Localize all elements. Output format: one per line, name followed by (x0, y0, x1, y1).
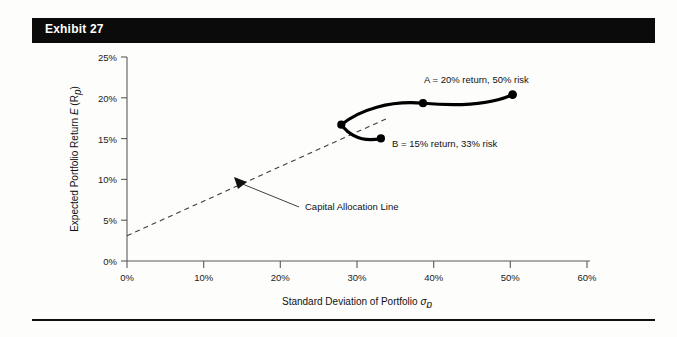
annotation-cal-arrow-icon (234, 177, 247, 189)
x-tick-label-40: 40% (424, 272, 444, 283)
x-axis-title: Standard Deviation of Portfolio σp (282, 296, 432, 308)
annotation-b-label: B = 15% return, 33% risk (392, 138, 498, 149)
x-tick-label-30: 30% (347, 272, 367, 283)
y-axis-title-arg-close: ) (69, 86, 80, 89)
x-axis-title-text: Standard Deviation of Portfolio (282, 296, 418, 307)
annotation-a-label: A = 20% return, 50% risk (424, 74, 529, 85)
y-axis-title-text: Expected Portfolio Return (69, 118, 80, 232)
capital-allocation-line-chart: 25% 20% 15% 10% 5% 0% 0% 10% 20% (0, 43, 677, 308)
efficient-frontier-upper (341, 95, 512, 125)
data-point-mid (419, 99, 427, 107)
y-axis-title: Expected Portfolio Return E (Rp) (69, 86, 83, 232)
y-tick-label-25: 25% (98, 52, 118, 63)
data-point-b (377, 134, 385, 142)
exhibit-title: Exhibit 27 (45, 22, 104, 36)
x-axis-tick-labels: 0% 10% 20% 30% 40% 50% 60% (120, 272, 597, 283)
y-axis-ticks (121, 57, 127, 261)
bottom-divider-rule (32, 319, 655, 321)
exhibit-header-bar: Exhibit 27 (32, 18, 655, 43)
svg-text:Expected Portfolio Return E (R: Expected Portfolio Return E (Rp) (69, 86, 83, 232)
y-axis-title-arg: (R (69, 95, 80, 106)
y-tick-label-0: 0% (103, 256, 117, 267)
data-point-tangency (337, 121, 345, 129)
chart-figure: 25% 20% 15% 10% 5% 0% 0% 10% 20% (0, 43, 677, 308)
capital-allocation-line (127, 118, 388, 236)
y-tick-label-5: 5% (103, 215, 117, 226)
y-axis-tick-labels: 25% 20% 15% 10% 5% 0% (98, 52, 118, 267)
x-tick-label-60: 60% (577, 272, 597, 283)
exhibit-page: Exhibit 27 25% 20% 15% 10% 5% (0, 0, 677, 337)
y-tick-label-20: 20% (98, 93, 118, 104)
data-point-a (508, 90, 517, 99)
x-tick-label-0: 0% (120, 272, 134, 283)
x-tick-label-50: 50% (501, 272, 521, 283)
y-tick-label-15: 15% (98, 134, 118, 145)
x-tick-label-10: 10% (194, 272, 214, 283)
x-tick-label-20: 20% (271, 272, 291, 283)
annotation-cal-label: Capital Allocation Line (305, 201, 398, 212)
minimum-variance-frontier-lower (341, 125, 381, 140)
y-tick-label-10: 10% (98, 174, 118, 185)
annotation-cal-leader-line (240, 183, 299, 207)
x-axis-title-symbol-sub: p (425, 299, 432, 308)
x-axis-ticks (127, 261, 587, 268)
